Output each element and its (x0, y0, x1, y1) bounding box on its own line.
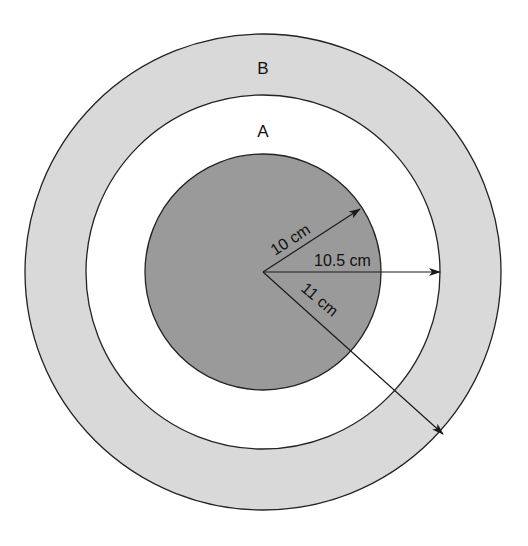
region-label-b: B (257, 59, 268, 78)
radius-label-10-5cm: 10.5 cm (314, 252, 371, 269)
concentric-circles-diagram: B A 10 cm 10.5 cm 11 cm (0, 0, 528, 546)
region-label-a: A (257, 122, 269, 141)
